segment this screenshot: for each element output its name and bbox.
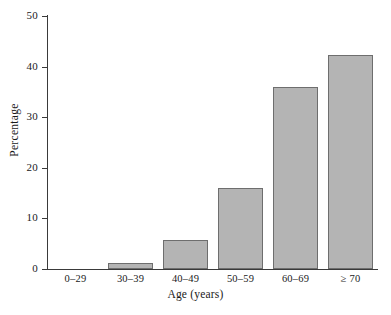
bar-chart: Percentage 01020304050 0–2930–3940–4950–… bbox=[0, 0, 391, 315]
y-tick-label: 0 bbox=[8, 263, 38, 274]
x-tick-label: 40–49 bbox=[158, 273, 213, 285]
y-tick-label: 20 bbox=[8, 162, 38, 173]
x-tick-label: ≥ 70 bbox=[323, 273, 378, 285]
x-tick-label: 60–69 bbox=[268, 273, 323, 285]
y-tick-label: 30 bbox=[8, 111, 38, 122]
y-tick-label: 40 bbox=[8, 61, 38, 72]
plot-area bbox=[48, 16, 378, 269]
x-tick-label: 30–39 bbox=[103, 273, 158, 285]
bar bbox=[273, 87, 318, 269]
y-tick-label: 50 bbox=[8, 10, 38, 21]
bar bbox=[328, 55, 373, 269]
y-tick-label: 10 bbox=[8, 212, 38, 223]
x-axis-line bbox=[47, 269, 378, 270]
x-tick-label: 0–29 bbox=[48, 273, 103, 285]
x-tick-label: 50–59 bbox=[213, 273, 268, 285]
x-axis-title: Age (years) bbox=[0, 288, 391, 300]
bar bbox=[163, 240, 208, 269]
y-tick-mark bbox=[42, 269, 48, 270]
bar bbox=[218, 188, 263, 269]
bar bbox=[108, 263, 153, 269]
